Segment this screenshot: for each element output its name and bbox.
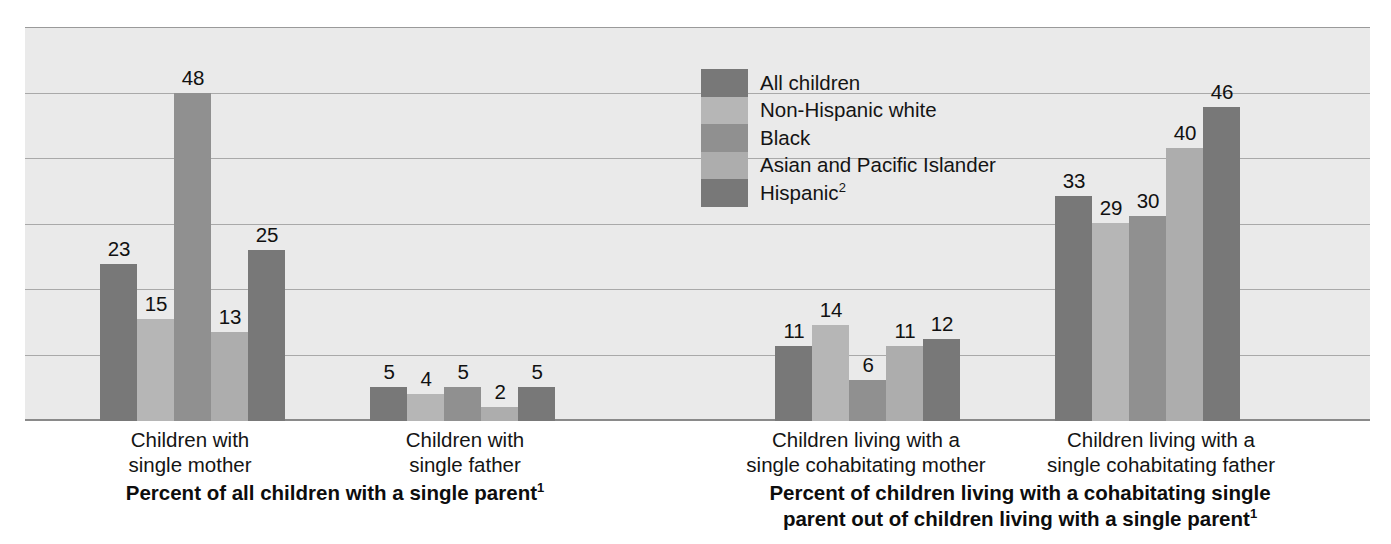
legend: All children Non-Hispanic white Black As… [701,69,1031,207]
bar-label-g1-all-children: 23 [89,237,149,261]
legend-swatch-asian-pacific [701,152,748,180]
category-label-single-mother: Children with single mother [55,427,325,477]
legend-item-hispanic[interactable]: Hispanic2 [701,179,1031,207]
bar-label-g3-hispanic: 12 [912,312,972,336]
bar-g3-all-children[interactable] [775,346,812,421]
bar-g1-all-children[interactable] [100,264,137,421]
bar-g2-all-children[interactable] [370,387,407,421]
legend-label-hispanic-superscript: 2 [839,180,846,195]
bar-label-g4-all-children: 33 [1044,169,1104,193]
panel-caption-left-line1: Percent of all children with a single pa… [25,480,645,506]
bar-g1-nh-white[interactable] [137,319,174,421]
bar-label-g1-asian-pacific: 13 [200,305,260,329]
legend-label-hispanic-text: Hispanic [760,181,839,204]
bar-label-g4-asian-pacific: 40 [1155,121,1215,145]
panel-caption-right-text2: parent out of children living with a sin… [783,507,1250,530]
legend-item-all-children[interactable]: All children [701,69,1031,97]
bar-label-g3-nh-white: 14 [801,298,861,322]
bar-label-g1-nh-white: 15 [126,292,186,316]
category-label-single-mother-line2: single mother [55,452,325,477]
legend-label-black: Black [760,128,810,149]
panel-caption-right-line2: parent out of children living with a sin… [700,506,1340,532]
panel-caption-left-superscript: 1 [537,480,544,495]
legend-label-hispanic: Hispanic2 [760,183,846,204]
bar-label-g4-black: 30 [1118,189,1178,213]
legend-swatch-black [701,124,748,152]
category-label-cohabitating-mother-line2: single cohabitating mother [711,452,1021,477]
bar-g1-black[interactable] [174,93,211,421]
plot-area: 23 15 48 13 25 5 4 5 2 5 11 14 [25,27,1370,421]
bar-group-single-mother: 23 15 48 13 25 [100,27,285,421]
category-label-cohabitating-mother: Children living with a single cohabitati… [711,427,1021,477]
legend-label-all-children: All children [760,73,860,94]
legend-swatch-nh-white [701,97,748,125]
bar-g2-asian-pacific[interactable] [481,407,518,421]
bar-label-g2-hispanic: 5 [507,360,567,384]
legend-swatch-hispanic [701,179,748,207]
bar-g3-hispanic[interactable] [923,339,960,421]
category-label-cohabitating-mother-line1: Children living with a [711,427,1021,452]
panel-caption-right-text1: Percent of children living with a cohabi… [769,481,1270,504]
bar-g2-nh-white[interactable] [407,394,444,421]
category-label-cohabitating-father: Children living with a single cohabitati… [1006,427,1316,477]
bar-g4-black[interactable] [1129,216,1166,421]
panel-caption-right-superscript: 1 [1250,506,1257,521]
panel-caption-right: Percent of children living with a cohabi… [700,480,1340,532]
bar-label-g3-black: 6 [838,353,898,377]
bar-g1-hispanic[interactable] [248,250,285,421]
category-label-single-father: Children with single father [330,427,600,477]
category-label-single-father-line2: single father [330,452,600,477]
panel-caption-right-line1: Percent of children living with a cohabi… [700,480,1340,506]
legend-label-asian-pacific: Asian and Pacific Islander [760,155,996,176]
legend-swatch-all-children [701,69,748,97]
legend-item-black[interactable]: Black [701,124,1031,152]
bar-group-single-father: 5 4 5 2 5 [370,27,555,421]
bar-label-g4-hispanic: 46 [1192,80,1252,104]
bar-label-g1-black: 48 [163,66,223,90]
category-label-cohabitating-father-line2: single cohabitating father [1006,452,1316,477]
chart-figure: 23 15 48 13 25 5 4 5 2 5 11 14 [0,0,1391,544]
bar-g4-nh-white[interactable] [1092,223,1129,421]
bar-label-g1-hispanic: 25 [237,223,297,247]
panel-caption-left-text: Percent of all children with a single pa… [126,481,537,504]
bar-g1-asian-pacific[interactable] [211,332,248,421]
bar-g4-all-children[interactable] [1055,196,1092,421]
legend-label-nh-white: Non-Hispanic white [760,100,937,121]
bar-g4-hispanic[interactable] [1203,107,1240,421]
legend-item-nh-white[interactable]: Non-Hispanic white [701,97,1031,125]
bar-g3-black[interactable] [849,380,886,421]
bar-label-g3-all-children: 11 [764,319,824,343]
category-label-cohabitating-father-line1: Children living with a [1006,427,1316,452]
category-label-single-mother-line1: Children with [55,427,325,452]
panel-caption-left: Percent of all children with a single pa… [25,480,645,506]
category-label-single-father-line1: Children with [330,427,600,452]
bar-group-cohabitating-father: 33 29 30 40 46 [1055,27,1240,421]
legend-item-asian-pacific[interactable]: Asian and Pacific Islander [701,152,1031,180]
